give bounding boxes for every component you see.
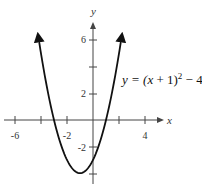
x-tick-label: -2 [63, 130, 71, 141]
x-tick-label: 4 [143, 130, 148, 141]
x-axis: -6 -2 4 x [4, 114, 172, 141]
y-tick-label: 6 [81, 34, 86, 45]
x-axis-arrow-icon [157, 117, 164, 123]
y-axis-arrow-icon [90, 22, 96, 29]
y-axis-label: y [90, 5, 96, 17]
y-tick-label: -2 [78, 142, 86, 153]
x-tick-label: -6 [11, 130, 19, 141]
y-tick-label: 2 [81, 88, 86, 99]
equation-label: y = (x + 1)2 − 4 [120, 71, 202, 87]
parabola-chart: -6 -2 4 x 6 2 -2 y y = (x + 1)2 − 4 [0, 0, 202, 184]
x-axis-label: x [166, 114, 172, 126]
